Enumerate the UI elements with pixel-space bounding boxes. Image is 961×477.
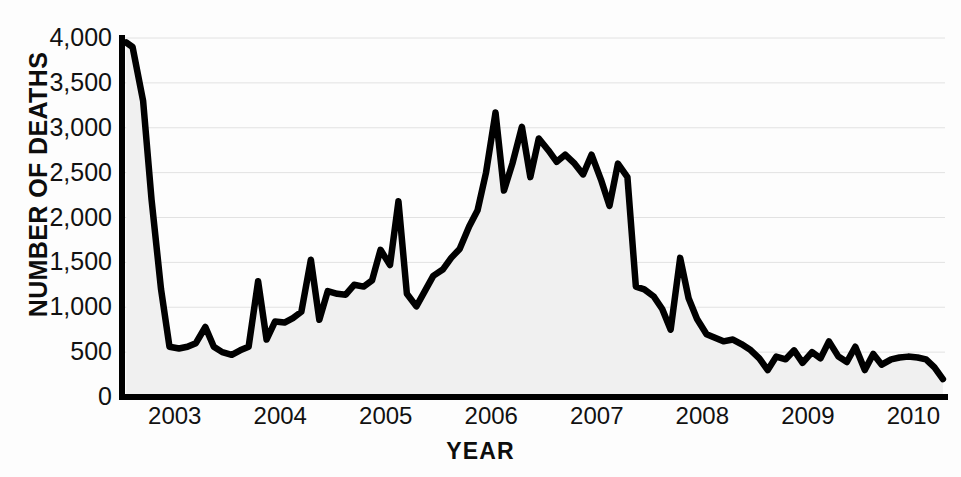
y-tick-label: 1,500 [34, 249, 112, 274]
y-tick-label: 3,000 [34, 115, 112, 140]
x-tick-label: 2007 [542, 402, 652, 430]
x-tick-label: 2008 [647, 402, 757, 430]
y-tick-label: 2,000 [34, 205, 112, 230]
y-tick-label: 4,000 [34, 25, 112, 50]
x-tick-label: 2010 [858, 402, 961, 430]
y-tick-label: 500 [34, 339, 112, 364]
y-tick-label: 1,000 [34, 294, 112, 319]
y-tick-label: 3,500 [34, 70, 112, 95]
x-axis-title: YEAR [0, 438, 961, 465]
x-tick-label: 2009 [753, 402, 863, 430]
deaths-by-year-chart: NUMBER OF DEATHS 05001,0001,5002,0002,50… [0, 0, 961, 477]
y-tick-label: 2,500 [34, 160, 112, 185]
y-tick-label: 0 [34, 384, 112, 409]
x-tick-label: 2006 [436, 402, 546, 430]
x-tick-label: 2004 [225, 402, 335, 430]
x-tick-label: 2003 [120, 402, 230, 430]
x-tick-label: 2005 [331, 402, 441, 430]
